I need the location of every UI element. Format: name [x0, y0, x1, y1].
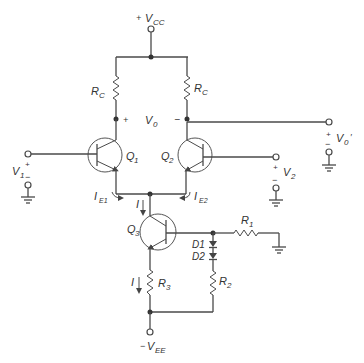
ground-icon	[272, 247, 286, 253]
r3-label: R	[158, 277, 166, 289]
vo-plus: +	[123, 115, 128, 125]
ground-icon	[322, 165, 336, 171]
transistor-q1: Q 1	[31, 119, 138, 194]
vo-prime-port: + V 0 ′ −	[322, 119, 352, 171]
i-bottom-label: I	[131, 276, 134, 288]
vee-sign: −	[140, 341, 145, 351]
vee-sub: EE	[155, 346, 166, 355]
vcc-sub: CC	[153, 18, 165, 27]
q2-sub: 2	[168, 156, 174, 165]
rc-left-sub: C	[99, 91, 105, 100]
v1-gnd-terminal	[25, 182, 31, 188]
ie2-sub: E2	[199, 197, 208, 204]
i-current-bottom: I	[131, 276, 139, 291]
vo-minus: −	[174, 114, 180, 125]
q3-sub: 3	[135, 229, 140, 238]
v2-sub: 2	[290, 172, 296, 181]
ie1-label: I	[94, 190, 97, 202]
v1-minus: −	[25, 172, 30, 182]
top-rail	[116, 55, 188, 60]
rc-right-sub: C	[202, 88, 208, 97]
v2-gnd-terminal	[273, 185, 279, 191]
v2-port: + V 2 −	[269, 154, 296, 206]
vo-prime-plus: +	[326, 130, 331, 139]
ie2-label: I	[194, 190, 197, 202]
q1-sub: 1	[134, 156, 138, 165]
vcc-supply: + V CC	[136, 12, 165, 57]
vo-prime-minus: −	[325, 139, 330, 149]
resistor-r1: R 1	[213, 214, 286, 253]
r2-sub: 2	[226, 281, 232, 290]
i-current-top: I	[136, 198, 143, 213]
diode-d1: D1	[192, 233, 217, 250]
resistor-r2: R 2	[210, 260, 232, 312]
r2-label: R	[219, 275, 227, 287]
ground-icon	[21, 197, 35, 203]
vee-terminal	[147, 329, 153, 335]
emitter-rail	[116, 192, 186, 217]
v2-plus: +	[273, 163, 278, 172]
vo-prime-mark: ′	[350, 132, 352, 142]
ie1-sub: E1	[99, 197, 108, 204]
rc-right-label: R	[194, 82, 202, 94]
r1-label: R	[241, 214, 249, 226]
resistor-rc-right: R C	[184, 57, 208, 119]
v2-terminal	[273, 154, 279, 160]
v1-terminal	[25, 151, 31, 157]
collector-node-q2	[185, 117, 190, 122]
vo-prime-gnd-terminal	[326, 149, 332, 155]
v1-sub: 1	[20, 171, 24, 180]
d1-label: D1	[192, 239, 205, 250]
bottom-rail: − V EE	[140, 310, 213, 356]
i-top-label: I	[136, 198, 139, 210]
d2-label: D2	[192, 251, 205, 262]
resistor-rc-left: R C	[91, 57, 119, 119]
r1-sub: 1	[249, 220, 253, 229]
resistor-r3: R 3	[147, 270, 171, 312]
junction-dot	[149, 55, 154, 60]
r3-sub: 3	[166, 283, 171, 292]
v1-port: + V 1 −	[12, 151, 35, 203]
ground-icon	[269, 200, 283, 206]
ie1-current: I E1	[94, 190, 121, 204]
vcc-terminal	[148, 26, 154, 32]
diode-d2: D2	[192, 248, 217, 262]
vo-sub: 0	[153, 120, 158, 129]
circuit-diagram: + V CC R C R C + V 0 − + V 0 ′ −	[0, 0, 364, 363]
vo-prime-sub: 0	[344, 138, 349, 147]
vo-prime-terminal	[326, 119, 332, 125]
v1-plus: +	[25, 160, 30, 169]
rc-left-label: R	[91, 85, 99, 97]
transistor-q2: Q 2	[161, 122, 273, 194]
vcc-sign: +	[136, 13, 141, 23]
v2-minus: −	[272, 175, 277, 185]
